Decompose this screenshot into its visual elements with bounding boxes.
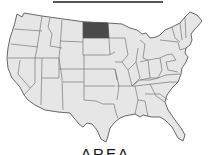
us-map xyxy=(0,0,211,155)
state-north-dakota[interactable] xyxy=(83,22,109,38)
area-caption: AREA xyxy=(0,146,211,155)
